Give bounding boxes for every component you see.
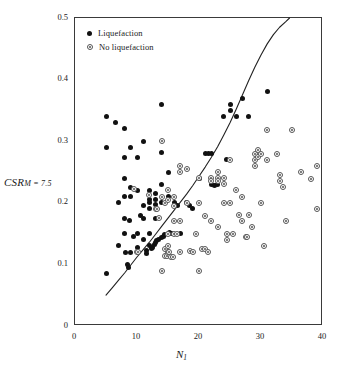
data-point-no-liquefaction	[165, 243, 171, 249]
data-point-liquefaction	[240, 96, 245, 101]
data-point-liquefaction	[209, 151, 214, 156]
data-point-no-liquefaction	[314, 163, 320, 169]
data-point-no-liquefaction	[258, 151, 264, 157]
y-tick-label-1: 0.1	[40, 258, 68, 268]
data-point-no-liquefaction	[221, 175, 227, 181]
data-point-liquefaction	[166, 170, 171, 175]
data-point-no-liquefaction	[190, 249, 196, 255]
data-point-no-liquefaction	[215, 178, 221, 184]
data-point-liquefaction	[141, 237, 146, 242]
data-point-no-liquefaction	[215, 169, 221, 175]
data-point-no-liquefaction	[165, 197, 171, 203]
data-point-no-liquefaction	[196, 200, 202, 206]
data-point-liquefaction	[228, 108, 233, 113]
data-point-no-liquefaction	[277, 172, 283, 178]
data-point-no-liquefaction	[159, 194, 165, 200]
data-point-no-liquefaction	[184, 166, 190, 172]
data-point-liquefaction	[135, 231, 140, 236]
data-point-no-liquefaction	[261, 243, 267, 249]
data-point-no-liquefaction	[230, 231, 236, 237]
scatter-chart-figure: CSRM = 7.5 N1 00.10.20.30.40.5010203040 …	[0, 0, 342, 377]
y-tick-label-4: 0.4	[40, 73, 68, 83]
data-point-liquefaction	[135, 155, 140, 160]
x-axis-title: N1	[176, 348, 187, 362]
crr-boundary-curve	[75, 18, 323, 326]
data-point-no-liquefaction	[224, 231, 230, 237]
data-point-liquefaction	[141, 139, 146, 144]
x-axis-title-subscript: 1	[183, 353, 187, 362]
data-point-no-liquefaction	[258, 200, 264, 206]
x-tick-label-4: 40	[308, 331, 336, 341]
data-point-no-liquefaction	[274, 151, 280, 157]
data-point-liquefaction	[122, 176, 127, 181]
y-axis-title: CSRM = 7.5	[4, 176, 52, 188]
data-point-no-liquefaction	[170, 254, 176, 260]
data-point-no-liquefaction	[252, 163, 258, 169]
data-point-no-liquefaction	[156, 215, 162, 221]
x-tick-label-1: 10	[122, 331, 150, 341]
data-point-no-liquefaction	[277, 178, 283, 184]
data-point-liquefaction	[104, 145, 109, 150]
data-point-no-liquefaction	[174, 231, 180, 237]
data-point-no-liquefaction	[165, 231, 171, 237]
data-point-liquefaction	[127, 218, 132, 223]
data-point-liquefaction	[234, 114, 239, 119]
y-axis-title-main: CSR	[4, 176, 24, 188]
data-point-no-liquefaction	[264, 157, 270, 163]
data-point-liquefaction	[147, 231, 152, 236]
data-point-no-liquefaction	[227, 200, 233, 206]
data-point-liquefaction	[104, 114, 109, 119]
y-tick-label-2: 0.2	[40, 196, 68, 206]
data-point-no-liquefaction	[246, 212, 252, 218]
data-point-no-liquefaction	[224, 237, 230, 243]
data-point-no-liquefaction	[171, 194, 177, 200]
data-point-no-liquefaction	[193, 231, 199, 237]
data-point-no-liquefaction	[154, 206, 160, 212]
data-point-no-liquefaction	[184, 200, 190, 206]
data-point-liquefaction	[104, 271, 109, 276]
data-point-liquefaction	[128, 250, 133, 255]
y-tick-label-0: 0	[40, 320, 68, 330]
data-point-liquefaction	[141, 216, 146, 221]
y-tick-label-3: 0.3	[40, 135, 68, 145]
plot-area: Liquefaction No liquefaction	[74, 17, 322, 325]
x-tick-label-2: 20	[184, 331, 212, 341]
data-point-no-liquefaction	[196, 268, 202, 274]
data-point-liquefaction	[228, 102, 233, 107]
data-point-liquefaction	[144, 251, 149, 256]
y-tick-label-5: 0.5	[40, 12, 68, 22]
data-point-no-liquefaction	[227, 157, 233, 163]
x-tick-label-3: 30	[246, 331, 274, 341]
data-point-no-liquefaction	[159, 138, 165, 144]
data-point-no-liquefaction	[221, 200, 227, 206]
data-point-no-liquefaction	[314, 206, 320, 212]
x-tick-label-0: 0	[60, 331, 88, 341]
data-point-no-liquefaction	[159, 268, 165, 274]
y-axis-title-subscript: M = 7.5	[24, 179, 51, 188]
